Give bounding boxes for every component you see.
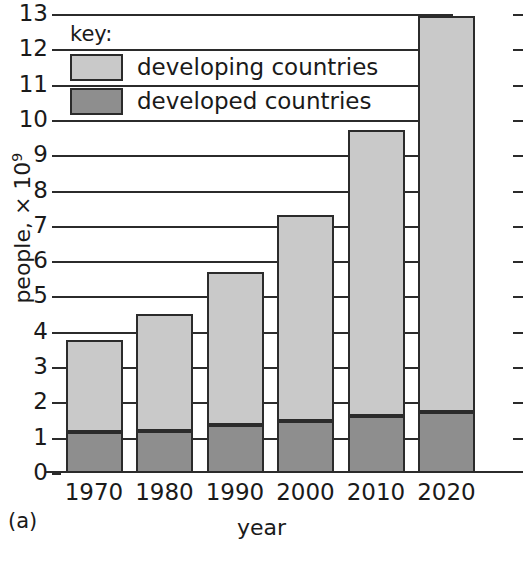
- gridline-13: [60, 14, 453, 16]
- figure-caption: (a): [8, 509, 37, 533]
- y-tick-mark-1: [52, 438, 61, 440]
- legend: key: developing countries developed coun…: [70, 22, 370, 118]
- y-tick-label-0: 0: [4, 461, 48, 484]
- legend-swatch-developing-icon: [70, 54, 123, 81]
- y-tick-mark-8: [52, 191, 61, 193]
- tick-stub-13: [513, 14, 523, 16]
- y-tick-label-12: 12: [4, 37, 48, 60]
- y-axis-title-multiplier: × 10: [10, 162, 35, 215]
- tick-stub-10: [513, 120, 523, 122]
- y-tick-mark-3: [52, 367, 61, 369]
- y-tick-mark-6: [52, 261, 61, 263]
- y-tick-mark-10: [52, 120, 61, 122]
- bar-segment-developing-1970: [66, 340, 123, 432]
- bar-segment-developed-1970: [66, 432, 123, 473]
- tick-stub-8: [513, 191, 523, 193]
- y-tick-mark-5: [52, 296, 61, 298]
- legend-label-developed: developed countries: [137, 89, 372, 113]
- y-tick-label-2: 2: [4, 390, 48, 413]
- bar-1980: [136, 316, 193, 473]
- figure-bar-chart: 012345678910111213 197019801990200020102…: [0, 0, 523, 562]
- legend-item-developing: developing countries: [70, 50, 370, 84]
- y-axis-title: people, × 109: [9, 88, 35, 368]
- bar-segment-developed-1980: [136, 431, 193, 473]
- y-axis-title-exponent: 9: [9, 153, 25, 162]
- bar-segment-developing-1980: [136, 314, 193, 431]
- legend-label-developing: developing countries: [137, 55, 378, 79]
- tick-stub-4: [513, 332, 523, 334]
- bar-1990: [207, 274, 264, 473]
- bar-segment-developing-2010: [348, 130, 405, 416]
- tick-stub-1: [513, 438, 523, 440]
- legend-swatch-developed-icon: [70, 88, 123, 115]
- y-tick-mark-13: [52, 14, 61, 16]
- y-tick-mark-9: [52, 155, 61, 157]
- bar-2020: [418, 18, 475, 473]
- x-axis-title: year: [0, 515, 523, 540]
- tick-stub-3: [513, 367, 523, 369]
- y-tick-mark-2: [52, 402, 61, 404]
- tick-stub-11: [513, 85, 523, 87]
- y-axis-title-text: people,: [10, 215, 35, 304]
- y-tick-mark-11: [52, 85, 61, 87]
- y-tick-mark-7: [52, 226, 61, 228]
- bar-segment-developing-2000: [277, 215, 334, 421]
- y-tick-mark-0: [52, 473, 61, 475]
- legend-title: key:: [70, 22, 370, 46]
- bar-segment-developed-2000: [277, 421, 334, 473]
- y-tick-label-13: 13: [4, 2, 48, 25]
- x-tick-label-2020: 2020: [402, 479, 492, 505]
- bar-segment-developed-2010: [348, 416, 405, 473]
- y-tick-mark-12: [52, 49, 61, 51]
- bar-1970: [66, 342, 123, 473]
- tick-stub-9: [513, 155, 523, 157]
- x-axis-line: [46, 471, 523, 473]
- bar-segment-developed-1990: [207, 425, 264, 473]
- bar-2000: [277, 217, 334, 473]
- tick-stub-6: [513, 261, 523, 263]
- tick-stub-7: [513, 226, 523, 228]
- bar-segment-developed-2020: [418, 412, 475, 473]
- y-tick-label-1: 1: [4, 426, 48, 449]
- tick-stub-12: [513, 49, 523, 51]
- bar-2010: [348, 132, 405, 473]
- gridline-10: [60, 120, 453, 122]
- tick-stub-2: [513, 402, 523, 404]
- bar-segment-developing-1990: [207, 272, 264, 424]
- tick-stub-5: [513, 296, 523, 298]
- y-tick-mark-4: [52, 332, 61, 334]
- legend-item-developed: developed countries: [70, 84, 370, 118]
- bar-segment-developing-2020: [418, 16, 475, 413]
